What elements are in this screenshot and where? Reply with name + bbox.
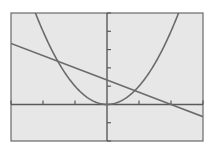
graph-plot (0, 0, 215, 151)
